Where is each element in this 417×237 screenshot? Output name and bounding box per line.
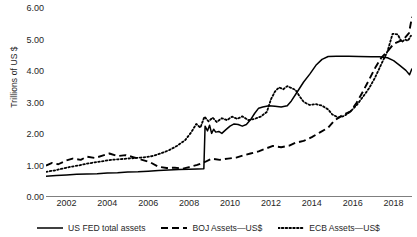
- y-axis-tick-label: 5.00: [4, 35, 44, 45]
- x-axis-tick-label: 2006: [138, 198, 158, 208]
- x-axis-tick-label: 2004: [97, 198, 117, 208]
- x-axis-tick-label: 2008: [179, 198, 199, 208]
- x-axis-line: [46, 196, 412, 197]
- y-axis-tick-label: 1.00: [4, 161, 44, 171]
- legend-swatch-dotted: [278, 224, 304, 232]
- x-axis-tick-label: 2010: [220, 198, 240, 208]
- y-axis-tick-label: 3.00: [4, 98, 44, 108]
- x-axis-tick-label: 2012: [261, 198, 281, 208]
- legend-label: US FED total assets: [68, 223, 145, 233]
- chart-container: Trillions of US $ 0.001.002.003.004.005.…: [0, 0, 417, 237]
- legend-label: ECB Assets—US$: [309, 223, 380, 233]
- series-canvas: [46, 8, 412, 197]
- plot-area: [46, 8, 412, 197]
- chart-legend: US FED total assetsBOJ Assets—US$ECB Ass…: [0, 219, 417, 237]
- legend-swatch-solid: [37, 224, 63, 232]
- x-axis-tick-labels: 200220042006200820102012201420162018: [46, 198, 412, 214]
- y-axis-tick-label: 6.00: [4, 3, 44, 13]
- x-axis-tick-label: 2002: [56, 198, 76, 208]
- legend-label: BOJ Assets—US$: [192, 223, 262, 233]
- y-axis-tick-label: 4.00: [4, 66, 44, 76]
- y-axis-tick-labels: 0.001.002.003.004.005.006.00: [0, 0, 44, 237]
- x-axis-tick-label: 2014: [302, 198, 322, 208]
- x-axis-tick-label: 2018: [384, 198, 404, 208]
- y-axis-tick-label: 2.00: [4, 129, 44, 139]
- y-axis-tick-label: 0.00: [4, 192, 44, 202]
- legend-item[interactable]: ECB Assets—US$: [278, 223, 380, 233]
- x-axis-tick-label: 2016: [343, 198, 363, 208]
- series-line-dashed: [46, 17, 412, 169]
- legend-swatch-dashed: [161, 224, 187, 232]
- legend-item[interactable]: BOJ Assets—US$: [161, 223, 262, 233]
- legend-item[interactable]: US FED total assets: [37, 223, 145, 233]
